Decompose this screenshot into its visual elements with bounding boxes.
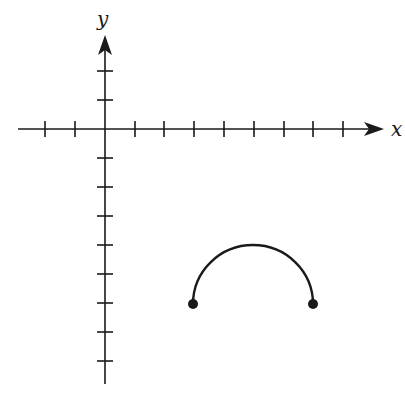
semicircle-curve — [193, 245, 313, 304]
y-axis-label: y — [96, 7, 109, 31]
x-axis-label: x — [391, 117, 402, 141]
y-axis — [97, 44, 113, 384]
coordinate-plane: x y — [0, 0, 405, 397]
left-endpoint-dot — [188, 299, 198, 309]
right-endpoint-dot — [308, 299, 318, 309]
x-axis — [18, 121, 376, 137]
